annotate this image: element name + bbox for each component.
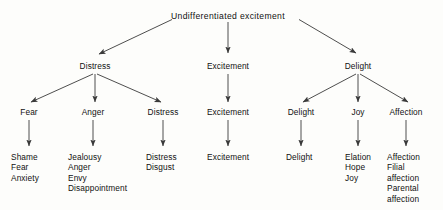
leaf-parental-affection: affection (387, 194, 420, 204)
edge-root-to-distress (99, 20, 172, 55)
leaf-excitement: Excitement (207, 152, 249, 162)
node-root: Undifferentiated excitement (171, 11, 285, 21)
diagram-edges (0, 0, 443, 210)
leaf-group-joy: Elation Hope Joy (345, 152, 371, 183)
node-fear-level3: Fear (20, 108, 37, 118)
leaf-anger: Anger (68, 162, 127, 172)
leaf-filial-affection: affection (387, 173, 420, 183)
leaf-group-fear: Shame Fear Anxiety (11, 152, 39, 183)
leaf-envy: Envy (68, 173, 127, 183)
edge-distress-to-fear (31, 74, 93, 102)
node-anger-level3: Anger (82, 108, 105, 118)
edge-delight-to-affection (360, 74, 408, 102)
leaf-filial: Filial (387, 162, 420, 172)
leaf-affection: Affection (387, 152, 420, 162)
leaf-group-affection: Affection Filial affection Parental affe… (387, 152, 420, 204)
leaf-disappointment: Disappointment (68, 183, 127, 193)
leaf-hope: Hope (345, 162, 371, 172)
leaf-fear: Fear (11, 162, 39, 172)
node-delight-level3: Delight (288, 108, 315, 118)
node-excitement-level3: Excitement (207, 108, 249, 118)
edge-root-to-delight (299, 20, 356, 54)
leaf-group-anger: Jealousy Anger Envy Disappointment (68, 152, 127, 194)
node-delight-level2: Delight (345, 62, 372, 72)
leaf-jealousy: Jealousy (68, 152, 127, 162)
node-affection-level3: Affection (389, 108, 422, 118)
leaf-group-distress: Distress Disgust (146, 152, 177, 173)
node-joy-level3: Joy (351, 108, 364, 118)
leaf-distress: Distress (146, 152, 177, 162)
edge-distress-to-distress (97, 74, 161, 102)
emotion-differentiation-diagram: Undifferentiated excitement Distress Exc… (0, 0, 443, 210)
node-excitement-level2: Excitement (207, 62, 249, 72)
edge-delight-to-delight (303, 74, 356, 102)
node-distress-level3: Distress (148, 108, 179, 118)
leaf-shame: Shame (11, 152, 39, 162)
leaf-joy: Joy (345, 173, 371, 183)
leaf-group-delight: Delight (286, 152, 313, 162)
leaf-anxiety: Anxiety (11, 173, 39, 183)
leaf-elation: Elation (345, 152, 371, 162)
leaf-delight: Delight (286, 152, 313, 162)
leaf-group-excitement: Excitement (207, 152, 249, 162)
leaf-parental: Parental (387, 183, 420, 193)
leaf-disgust: Disgust (146, 162, 177, 172)
node-distress-level2: Distress (80, 62, 111, 72)
